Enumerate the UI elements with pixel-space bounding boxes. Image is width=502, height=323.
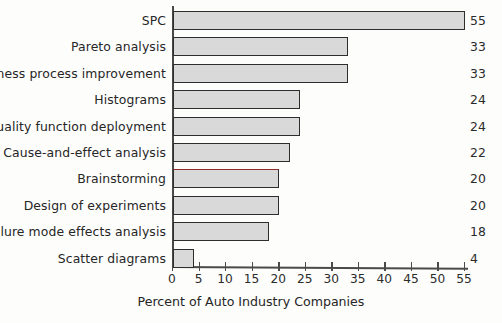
bar — [173, 249, 194, 268]
bar-category-label: Quality function deployment — [0, 114, 166, 140]
bar-value-label: 20 — [470, 193, 486, 219]
bar-category-label: Histograms — [94, 87, 166, 113]
x-tick — [172, 262, 173, 271]
x-tick-label: 50 — [430, 272, 446, 286]
bar-category-label: Scatter diagrams — [58, 246, 166, 272]
bar — [173, 117, 300, 136]
bar — [173, 64, 348, 83]
x-tick — [384, 262, 385, 271]
bar-value-label: 20 — [470, 166, 486, 192]
bar-value-label: 4 — [470, 246, 478, 272]
x-tick — [437, 262, 438, 271]
bar-row: Failure mode effects analysis18 — [172, 219, 468, 245]
x-axis-title: Percent of Auto Industry Companies — [0, 294, 502, 309]
x-tick-label: 0 — [168, 272, 176, 286]
bar-value-label: 55 — [470, 8, 486, 34]
bar-category-label: Pareto analysis — [71, 34, 166, 60]
bar-category-label: Cause-and-effect analysis — [3, 140, 166, 166]
bar — [173, 143, 290, 162]
x-tick — [358, 262, 359, 271]
bar-row: Histograms24 — [172, 87, 468, 113]
x-tick — [411, 262, 412, 271]
x-tick-label: 35 — [350, 272, 366, 286]
bar-value-label: 24 — [470, 87, 486, 113]
bar-row: Quality function deployment24 — [172, 114, 468, 140]
bar-value-label: 24 — [470, 114, 486, 140]
bar — [173, 222, 269, 241]
x-tick — [331, 262, 332, 271]
x-tick — [225, 262, 226, 271]
bar-category-label: Business process improvement — [0, 61, 166, 87]
bar-value-label: 33 — [470, 34, 486, 60]
bar — [173, 169, 279, 188]
bar-value-label: 22 — [470, 140, 486, 166]
x-tick-label: 40 — [377, 272, 393, 286]
bar-chart: SPC55Pareto analysis33Business process i… — [0, 0, 502, 323]
bar-row: Brainstorming20 — [172, 166, 468, 192]
x-tick-label: 20 — [270, 272, 286, 286]
bar-row: Cause-and-effect analysis22 — [172, 140, 468, 166]
bar-value-label: 18 — [470, 219, 486, 245]
plot-area: SPC55Pareto analysis33Business process i… — [172, 0, 468, 267]
bar-category-label: SPC — [142, 8, 166, 34]
bar-row: Pareto analysis33 — [172, 34, 468, 60]
bar — [173, 37, 348, 56]
bar-value-label: 33 — [470, 61, 486, 87]
x-tick-label: 55 — [456, 272, 472, 286]
bar — [173, 11, 465, 30]
x-tick-label: 15 — [244, 272, 260, 286]
bar-row: Design of experiments20 — [172, 193, 468, 219]
x-tick-label: 45 — [403, 272, 419, 286]
x-tick-label: 10 — [217, 272, 233, 286]
bar — [173, 196, 279, 215]
bar-row: Scatter diagrams4 — [172, 246, 468, 272]
bar-row: SPC55 — [172, 8, 468, 34]
bar-row: Business process improvement33 — [172, 61, 468, 87]
x-tick-label: 5 — [195, 272, 203, 286]
x-tick — [199, 262, 200, 271]
x-tick — [305, 262, 306, 271]
x-tick-label: 30 — [324, 272, 340, 286]
x-tick — [464, 262, 465, 271]
bar-category-label: Brainstorming — [77, 166, 166, 192]
x-tick — [278, 262, 279, 271]
bar-category-label: Design of experiments — [24, 193, 166, 219]
x-tick-label: 25 — [297, 272, 313, 286]
x-tick — [252, 262, 253, 271]
bar — [173, 90, 300, 109]
bar-category-label: Failure mode effects analysis — [0, 219, 166, 245]
